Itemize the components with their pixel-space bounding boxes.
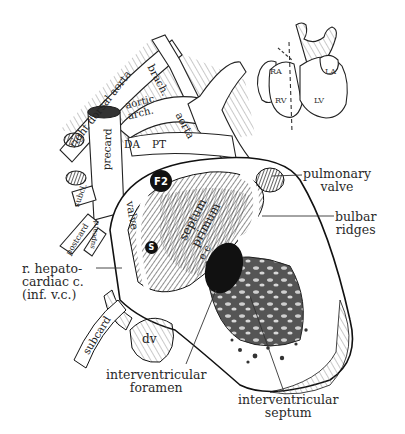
callout-line: septum	[238, 406, 338, 419]
callout-note: (inf. v.c.)	[22, 288, 84, 301]
inset-label-la: LA	[325, 67, 336, 76]
callout-interventricular-septum: interventricular septum	[238, 393, 338, 419]
heart-illustration: RA LA RV LV right dorsal aorta brach. ao…	[0, 0, 405, 434]
inset-label-ra: RA	[270, 67, 282, 76]
marker-s: S	[145, 241, 158, 254]
callout-line: ridges	[335, 223, 376, 236]
label-precard: precard	[100, 128, 113, 170]
label-dv: dv	[142, 332, 156, 346]
callout-pulmonary-valve: pulmonary valve	[303, 167, 371, 193]
callout-line: valve	[303, 180, 371, 193]
label-pt: PT	[152, 138, 166, 150]
inset-label-rv: RV	[275, 96, 287, 105]
callout-hepatocardiac: r. hepato- cardiac c. (inf. v.c.)	[22, 262, 84, 301]
callout-line: foramen	[106, 381, 206, 394]
inset-label-lv: LV	[314, 96, 324, 105]
label-da: DA	[124, 138, 140, 150]
callout-bulbar-ridges: bulbar ridges	[335, 210, 376, 236]
callout-interventricular-foramen: interventricular foramen	[106, 368, 206, 394]
marker-f2: F2	[150, 170, 172, 192]
inset-heart	[257, 23, 347, 132]
